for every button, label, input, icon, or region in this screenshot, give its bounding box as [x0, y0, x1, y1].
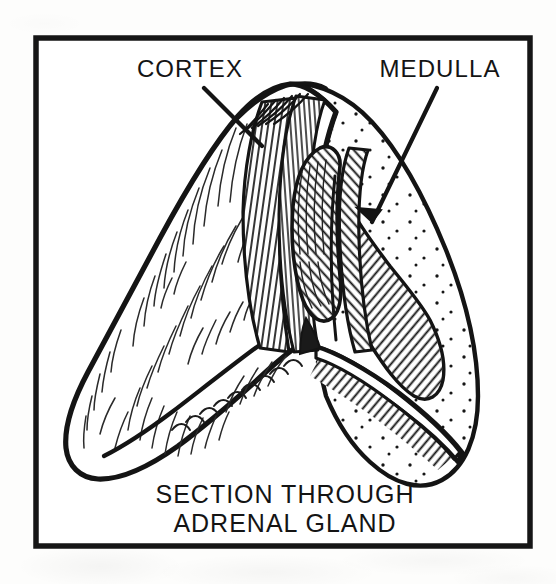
adrenal-gland-figure: CORTEX MEDULLA SECTION THROUGH ADRENAL G…: [0, 0, 556, 584]
caption-line-2: ADRENAL GLAND: [173, 509, 396, 537]
cortex-label: CORTEX: [137, 55, 243, 82]
figure-page: CORTEX MEDULLA SECTION THROUGH ADRENAL G…: [0, 0, 556, 584]
medulla-label: MEDULLA: [379, 55, 500, 82]
caption-line-1: SECTION THROUGH: [156, 480, 415, 508]
